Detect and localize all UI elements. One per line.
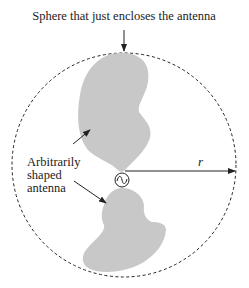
antenna-sphere-diagram: r Sphere that just encloses the antenna … — [0, 0, 249, 288]
radius-label: r — [198, 154, 204, 169]
antenna-label-line-2: shaped — [27, 168, 62, 182]
antenna-lower-lobe — [83, 188, 166, 272]
antenna-upper-lobe — [78, 53, 150, 172]
voltage-source-icon — [115, 173, 129, 187]
antenna-label-line-3: antenna — [27, 181, 66, 195]
antenna-label-line-1: Arbitrarily — [27, 155, 81, 169]
antenna-label-arrow-lower — [74, 181, 106, 203]
sphere-label: Sphere that just encloses the antenna — [32, 9, 216, 23]
antenna-label: Arbitrarily shaped antenna — [27, 155, 84, 195]
